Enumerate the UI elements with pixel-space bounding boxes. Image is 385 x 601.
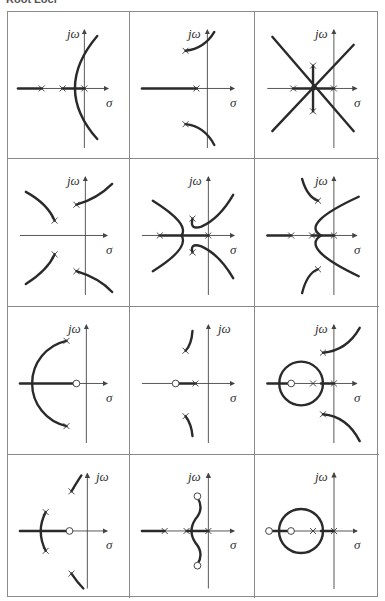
jw-axis-label: jω <box>188 470 201 483</box>
sigma-axis-label: σ <box>230 243 236 256</box>
jw-axis-label: jω <box>189 174 202 187</box>
jw-axis-label: jω <box>67 27 80 40</box>
cell-r1c3: jω σ <box>255 12 379 159</box>
sigma-axis-label: σ <box>354 96 360 109</box>
cell-r3c3: jω σ <box>255 307 379 455</box>
sigma-axis-label: σ <box>106 243 112 256</box>
cell-r2c3: jω σ <box>255 159 379 307</box>
sigma-axis-label: σ <box>230 96 236 109</box>
sigma-axis-label: σ <box>106 96 112 109</box>
cell-r4c1: jω σ <box>8 455 130 598</box>
jw-axis-label: jω <box>96 470 109 483</box>
root-locus-plot <box>130 307 254 454</box>
sigma-axis-label: σ <box>106 538 112 551</box>
cell-r3c2: jω σ <box>130 307 255 455</box>
cell-r2c2: jω σ <box>130 159 255 307</box>
sigma-axis-label: σ <box>230 538 236 551</box>
sigma-axis-label: σ <box>106 391 112 404</box>
cell-r2c1: jω σ <box>8 159 130 307</box>
cell-r1c1: jω σ <box>8 12 130 159</box>
sigma-axis-label: σ <box>354 538 360 551</box>
jw-axis-label: jω <box>315 27 328 40</box>
root-locus-plot <box>8 455 129 598</box>
jw-axis-label: jω <box>315 470 328 483</box>
sigma-axis-label: σ <box>354 243 360 256</box>
jw-axis-label: jω <box>315 322 328 335</box>
jw-axis-label: jω <box>67 174 80 187</box>
jw-axis-label: jω <box>68 322 81 335</box>
cell-r1c2: jω σ <box>130 12 255 159</box>
sigma-axis-label: σ <box>354 391 360 404</box>
figure-caption: Root Loci <box>6 0 57 5</box>
jw-axis-label: jω <box>315 174 328 187</box>
cell-r4c3: jω σ <box>255 455 379 598</box>
root-locus-grid: jω σ jω σ jω σ <box>7 11 378 597</box>
sigma-axis-label: σ <box>230 391 236 404</box>
jw-axis-label: jω <box>218 322 231 335</box>
cell-r4c2: jω σ <box>130 455 255 598</box>
cell-r3c1: jω σ <box>8 307 130 455</box>
jw-axis-label: jω <box>188 27 201 40</box>
